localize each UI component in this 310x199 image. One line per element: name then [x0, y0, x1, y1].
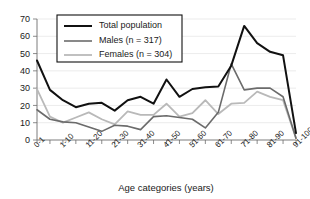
x-axis-tick-label: 91-100 — [291, 125, 310, 149]
y-axis-tick-label: 40 — [20, 66, 30, 76]
line-chart-svg: 010203040506070 0-11-1011-2021-3031-4041… — [0, 0, 310, 199]
y-axis-ticks-group — [33, 19, 37, 140]
x-axis-tick-label: 81-90 — [265, 128, 286, 149]
chart-figure: 010203040506070 0-11-1011-2021-3031-4041… — [0, 0, 310, 199]
series-line-males — [37, 64, 296, 138]
legend: Total population Males (n = 317) Females… — [57, 15, 182, 62]
y-axis-tick-label: 60 — [20, 31, 30, 41]
x-axis-tick-label: 61-70 — [213, 128, 234, 149]
x-axis-tick-label: 1-10 — [58, 131, 76, 149]
x-axis-tick-label: 51-60 — [187, 128, 208, 149]
x-axis-tick-label: 0-1 — [32, 134, 47, 149]
y-axis-tick-label: 10 — [20, 118, 30, 128]
x-axis-title: Age categories (years) — [118, 182, 214, 193]
x-axis-tick-label: 41-50 — [162, 128, 183, 149]
y-axis-tick-label: 20 — [20, 101, 30, 111]
series-line-females — [37, 89, 296, 138]
y-axis-labels-group: 010203040506070 — [20, 14, 30, 145]
y-axis-tick-label: 70 — [20, 14, 30, 24]
legend-label-females: Females (n = 304) — [99, 49, 172, 59]
x-axis-tick-label: 31-40 — [136, 128, 157, 149]
x-axis-labels-group: 0-11-1011-2021-3031-4041-5051-6061-7071-… — [32, 125, 310, 149]
x-axis-tick-label: 21-30 — [110, 128, 131, 149]
x-axis-tick-label: 71-80 — [239, 128, 260, 149]
y-axis-tick-label: 0 — [25, 135, 30, 145]
legend-label-total-population: Total population — [99, 20, 162, 30]
y-axis-tick-label: 30 — [20, 83, 30, 93]
legend-label-males: Males (n = 317) — [99, 35, 162, 45]
y-axis-tick-label: 50 — [20, 49, 30, 59]
